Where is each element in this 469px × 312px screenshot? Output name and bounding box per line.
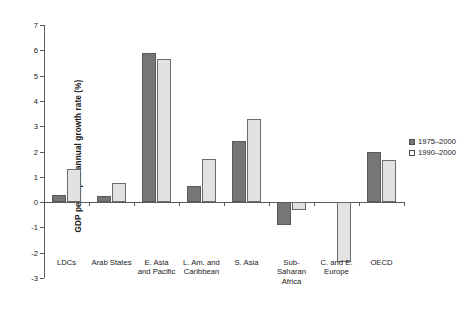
- bar: [277, 202, 292, 225]
- plot-area: 76543210-1-2-3: [44, 25, 404, 278]
- bar: [112, 183, 127, 202]
- bar: [247, 119, 262, 202]
- bar-chart: GDP per capita annual growth rate (%) 76…: [0, 0, 469, 312]
- y-axis-tick: [40, 126, 44, 127]
- y-axis-tick-label: 6: [34, 46, 38, 55]
- bar: [382, 160, 397, 202]
- x-axis-category-label: S. Asia: [235, 258, 259, 267]
- y-axis-tick: [40, 152, 44, 153]
- legend-swatch-open-square-icon: [409, 150, 415, 156]
- x-axis-tick: [89, 202, 90, 206]
- legend: 1975–2000 1990–2000: [409, 136, 456, 158]
- x-axis-tick: [224, 202, 225, 206]
- y-axis-line: [44, 25, 45, 278]
- legend-label: 1975–2000: [418, 136, 456, 147]
- y-axis-tick-label: 0: [34, 198, 38, 207]
- bar: [187, 186, 202, 202]
- bar: [367, 152, 382, 203]
- x-axis-category-label: E. Asia and Pacific: [138, 258, 176, 277]
- x-axis-tick: [269, 202, 270, 206]
- legend-item-series-2[interactable]: 1990–2000: [409, 147, 456, 158]
- bar: [97, 196, 112, 202]
- y-axis-tick-label: -2: [31, 248, 38, 257]
- y-axis-tick-label: 1: [34, 172, 38, 181]
- x-axis-tick: [179, 202, 180, 206]
- bar: [292, 202, 307, 210]
- x-axis-tick: [404, 202, 405, 206]
- bar: [157, 59, 172, 202]
- x-axis-category-label: Arab States: [91, 258, 131, 267]
- y-axis-tick-label: 7: [34, 21, 38, 30]
- bar: [142, 53, 157, 202]
- x-axis-tick: [44, 202, 45, 206]
- legend-label: 1990–2000: [418, 147, 456, 158]
- legend-item-series-1[interactable]: 1975–2000: [409, 136, 456, 147]
- x-axis-category-label: Sub- Saharan Africa: [277, 258, 306, 286]
- x-axis-category-label: OECD: [370, 258, 392, 267]
- x-axis-tick: [314, 202, 315, 206]
- x-axis-category-label: L. Am. and Caribbean: [183, 258, 220, 277]
- y-axis-tick: [40, 101, 44, 102]
- y-axis-tick-label: -3: [31, 274, 38, 283]
- y-axis-tick-label: 4: [34, 96, 38, 105]
- y-axis-tick: [40, 177, 44, 178]
- x-axis-tick: [134, 202, 135, 206]
- y-axis-tick-label: 5: [34, 71, 38, 80]
- bar: [232, 141, 247, 202]
- y-axis-tick: [40, 227, 44, 228]
- y-axis-tick-label: -1: [31, 223, 38, 232]
- y-axis-tick-label: 2: [34, 147, 38, 156]
- x-axis-tick: [359, 202, 360, 206]
- bar: [52, 195, 67, 203]
- bar: [202, 159, 217, 202]
- x-axis-category-label: C. and E. Europe: [320, 258, 352, 277]
- bar: [67, 169, 82, 202]
- y-axis-tick: [40, 25, 44, 26]
- y-axis-tick: [40, 76, 44, 77]
- y-axis-tick-label: 3: [34, 122, 38, 131]
- legend-swatch-filled-dark-square-icon: [409, 139, 415, 145]
- bar: [337, 202, 352, 261]
- y-axis-tick: [40, 50, 44, 51]
- x-axis-category-label: LDCs: [57, 258, 76, 267]
- y-axis-tick: [40, 253, 44, 254]
- y-axis-tick: [40, 278, 44, 279]
